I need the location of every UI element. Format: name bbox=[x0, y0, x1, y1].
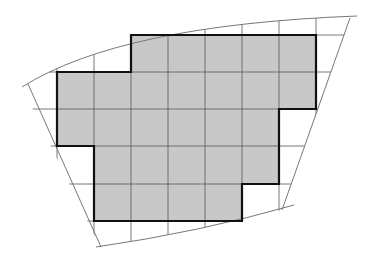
shaded-region bbox=[57, 35, 316, 221]
region-diagram bbox=[0, 0, 375, 261]
